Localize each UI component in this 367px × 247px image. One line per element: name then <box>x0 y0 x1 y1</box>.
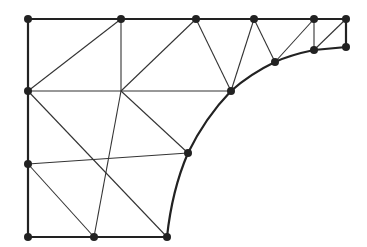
mesh-node <box>184 149 192 157</box>
mesh-node <box>342 15 350 23</box>
mesh-edges <box>28 19 346 237</box>
mesh-node <box>24 160 32 168</box>
mesh-node <box>271 58 279 66</box>
mesh-edge <box>254 19 275 62</box>
mesh-node <box>192 15 200 23</box>
mesh-node <box>310 15 318 23</box>
mesh-edge <box>28 164 94 237</box>
mesh-boundary <box>28 19 346 237</box>
mesh-node <box>24 87 32 95</box>
mesh-node <box>24 15 32 23</box>
mesh-diagram <box>0 0 367 247</box>
mesh-node <box>227 87 235 95</box>
mesh-edge <box>121 19 196 91</box>
mesh-node <box>342 43 350 51</box>
mesh-node <box>250 15 258 23</box>
mesh-node <box>163 233 171 241</box>
mesh-edge <box>314 19 346 50</box>
mesh-node <box>310 46 318 54</box>
mesh-edge <box>231 19 254 91</box>
mesh-node <box>24 233 32 241</box>
mesh-edge <box>196 19 231 91</box>
mesh-edge <box>121 91 188 153</box>
mesh-edge <box>28 19 121 91</box>
mesh-node <box>117 15 125 23</box>
mesh-node <box>90 233 98 241</box>
mesh-nodes <box>24 15 350 241</box>
